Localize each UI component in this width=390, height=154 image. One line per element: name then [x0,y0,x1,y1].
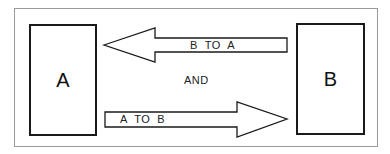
arrow-b-to-a-label: B TO A [190,39,280,51]
connector-and-text: AND [184,74,209,86]
arrow-a-to-b-label: A TO B [120,113,210,125]
